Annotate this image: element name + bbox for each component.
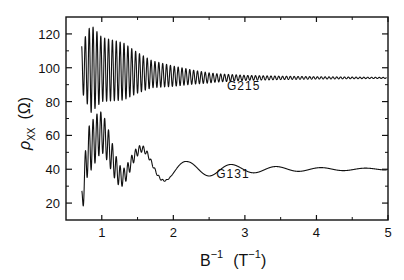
y-axis-sub: XX <box>26 127 37 141</box>
x-tick-label: 1 <box>98 225 105 240</box>
annotation-g131: G131 <box>216 167 249 181</box>
x-axis-base: B <box>200 252 211 269</box>
y-tick-label: 20 <box>46 196 60 211</box>
tick-labels: 1234520406080100120 <box>38 27 391 240</box>
magnetoresistance-chart: 1234520406080100120 G215 G131 B−1(T−1) ρ… <box>0 0 404 280</box>
y-tick-label: 60 <box>46 128 60 143</box>
x-axis-sup: −1 <box>211 248 224 260</box>
x-axis-title: B−1(T−1) <box>200 248 266 269</box>
x-axis-unit-close: ) <box>261 252 266 269</box>
y-axis-title: ρXX(Ω) <box>16 97 37 151</box>
axis-ticks <box>66 17 388 220</box>
x-axis-unit: (T <box>233 252 248 269</box>
y-tick-label: 120 <box>38 27 60 42</box>
x-tick-label: 3 <box>241 225 248 240</box>
plot-border <box>66 17 388 220</box>
y-tick-label: 100 <box>38 61 60 76</box>
y-axis-symbol: ρ <box>16 141 33 151</box>
y-axis-unit: (Ω) <box>16 97 33 120</box>
annotation-g215: G215 <box>227 79 260 93</box>
series-line-g131 <box>82 112 387 206</box>
y-tick-label: 40 <box>46 162 60 177</box>
x-tick-label: 4 <box>313 225 320 240</box>
x-axis-unit-sup: −1 <box>248 248 261 260</box>
x-tick-label: 2 <box>170 225 177 240</box>
y-tick-label: 80 <box>46 95 60 110</box>
series-line-g215 <box>82 27 387 112</box>
plot-frame <box>66 17 388 220</box>
x-tick-label: 5 <box>384 225 391 240</box>
